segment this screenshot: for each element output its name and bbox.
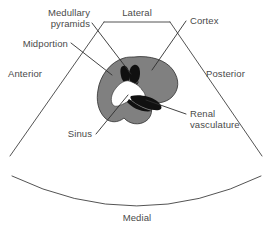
annotation-renal-vasculature-line2: vasculature (190, 119, 266, 130)
annotation-renal-vasculature-line1: Renal (190, 108, 266, 119)
annotation-medullary-pyramids-line1: Medullary (18, 7, 90, 18)
sector-right-edge (170, 22, 262, 156)
sector-label-medial: Medial (113, 212, 161, 223)
sector-label-posterior: Posterior (206, 68, 245, 79)
annotation-medullary-pyramids-line2: pyramids (18, 18, 90, 29)
sector-label-anterior: Anterior (8, 68, 42, 79)
sector-bottom-arc (12, 176, 261, 206)
annotation-medullary-pyramids: Medullary pyramids (18, 7, 90, 29)
annotation-midportion: Midportion (5, 38, 68, 49)
annotation-renal-vasculature: Renal vasculature (190, 108, 266, 130)
kidney-graphic (97, 57, 178, 124)
leader-cortex (152, 21, 186, 70)
annotation-cortex: Cortex (190, 15, 219, 26)
sector-label-lateral: Lateral (113, 7, 161, 18)
annotation-sinus: Sinus (56, 128, 92, 139)
leader-midportion (71, 43, 112, 75)
kidney-ultrasound-orientation-diagram: Lateral Medial Anterior Posterior Medull… (0, 0, 273, 236)
